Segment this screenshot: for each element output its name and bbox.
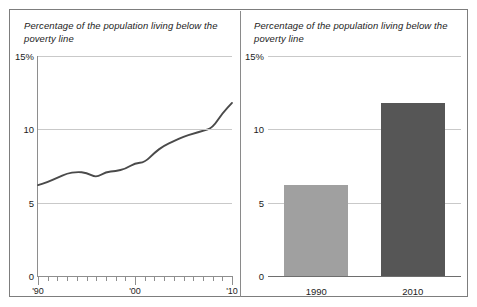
line-chart-y-tick-label-5: 5 (29, 197, 34, 208)
line-chart-panel: Percentage of the population living belo… (11, 11, 240, 297)
bar-chart-panel: Percentage of the population living belo… (241, 11, 469, 297)
x-axis-label-2010: '10 (226, 286, 238, 296)
bar-chart-y-tick-label-5: 5 (259, 197, 264, 208)
bar-chart-y-tick-label-10: 10 (253, 124, 264, 135)
x-tick-2000 (135, 276, 136, 285)
bar-label-1990: 1990 (306, 286, 327, 297)
line-chart-title: Percentage of the population living belo… (24, 20, 224, 45)
poverty-rate-line (38, 103, 232, 185)
bar-label-2010: 2010 (402, 286, 423, 297)
line-chart-y-tick-label-10: 10 (23, 124, 34, 135)
x-tick-1990 (38, 276, 39, 285)
line-chart-gridline-5 (38, 203, 232, 204)
line-chart-y-tick-label-0: 0 (29, 271, 34, 282)
x-tick-2010 (232, 276, 233, 285)
x-axis-label-2000: '00 (129, 286, 141, 296)
bar-chart-y-tick-label-0: 0 (259, 271, 264, 282)
bar-chart-baseline (268, 276, 461, 277)
bar-chart-gridline-15 (268, 56, 461, 57)
line-chart-x-tick-marks (38, 276, 232, 285)
x-axis-rail (38, 276, 232, 277)
bar-2010[interactable] (381, 103, 445, 276)
figure-frame: Percentage of the population living belo… (9, 9, 468, 297)
line-chart-plot-area: 15%1050 (38, 56, 232, 276)
line-chart-gridline-15 (38, 56, 232, 57)
bar-chart-plot-area: 15%1050 (268, 56, 461, 276)
line-chart-gridline-10 (38, 129, 232, 130)
line-chart-series-svg (38, 56, 232, 276)
bar-1990[interactable] (284, 185, 348, 276)
bar-chart-title: Percentage of the population living belo… (254, 20, 454, 45)
bar-chart-y-tick-label-15: 15% (245, 51, 264, 62)
x-axis-label-1990: '90 (32, 286, 44, 296)
figure-root: Percentage of the population living belo… (0, 0, 477, 307)
line-chart-y-tick-label-15: 15% (15, 51, 34, 62)
figure-frame-inner: Percentage of the population living belo… (10, 10, 467, 296)
